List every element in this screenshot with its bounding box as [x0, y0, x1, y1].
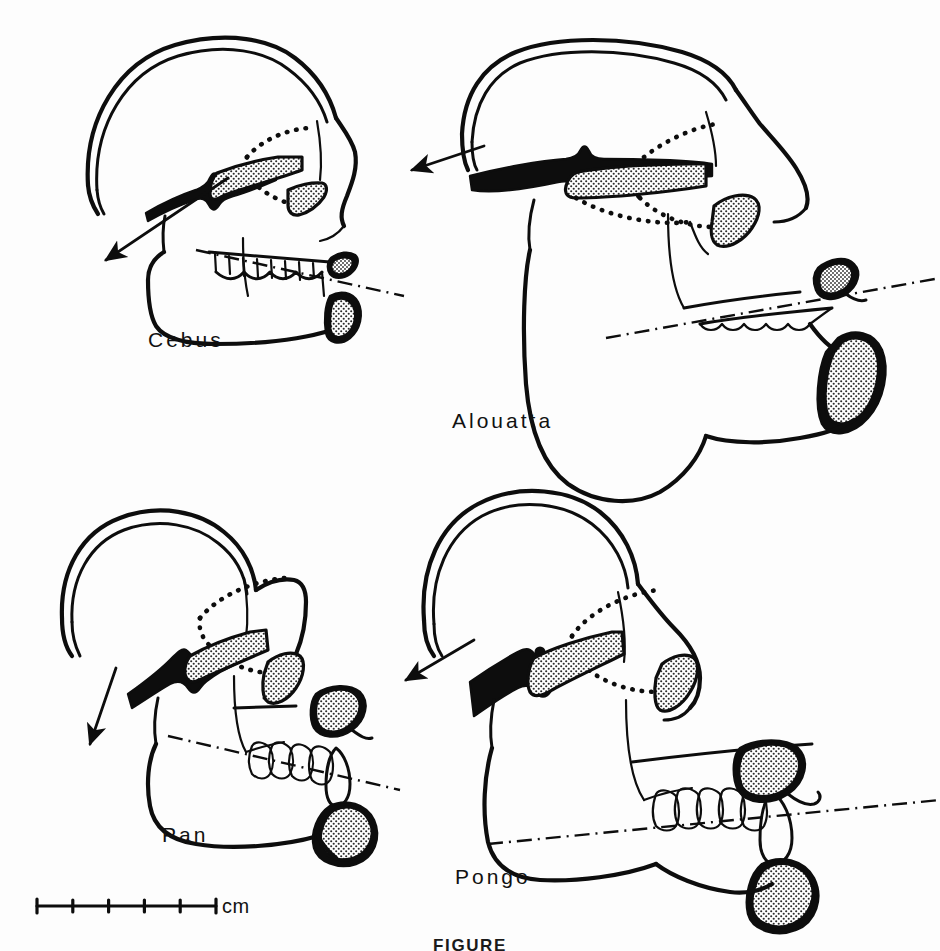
- figure-caption: FIGURE: [0, 936, 940, 951]
- force-arrow-cebus: [106, 178, 228, 260]
- skull-pan: [62, 511, 400, 867]
- skull-cebus: [88, 38, 404, 344]
- figure-plate: Cebus Alouatta Pan Pongo cm FIGURE: [0, 0, 940, 951]
- scale-bar: [37, 899, 216, 913]
- force-arrow-pan: [90, 668, 116, 744]
- force-arrow-pongo: [406, 640, 474, 680]
- taxon-label-pongo: Pongo: [455, 865, 531, 889]
- taxon-label-pan: Pan: [162, 823, 208, 847]
- taxon-label-alouatta: Alouatta: [452, 409, 553, 433]
- scale-bar-unit-label: cm: [222, 895, 250, 918]
- taxon-label-cebus: Cebus: [148, 328, 224, 352]
- skull-diagram-canvas: [0, 0, 940, 951]
